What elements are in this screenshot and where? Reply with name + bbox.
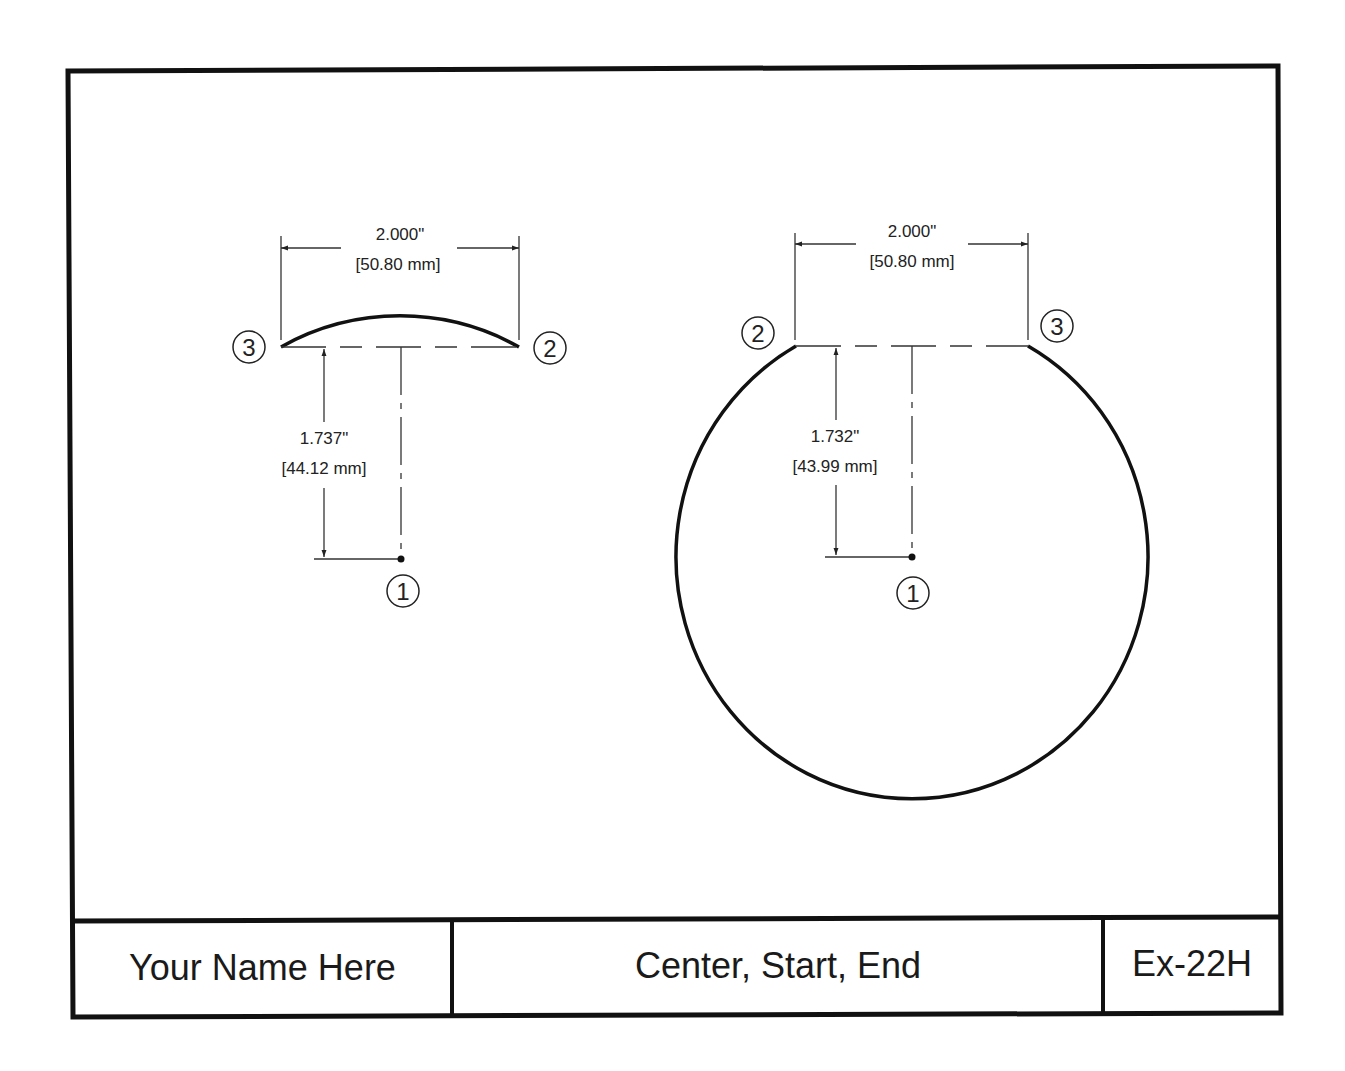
svg-text:1: 1 (906, 580, 919, 607)
left-marker-start: 2 (534, 332, 566, 364)
left-marker-center: 1 (387, 575, 419, 607)
left-height-dim-inch: 1.737" (300, 429, 349, 448)
svg-text:2: 2 (751, 320, 764, 347)
title-block-number: Ex-22H (1106, 919, 1278, 1009)
svg-text:2: 2 (543, 335, 556, 362)
right-arc (676, 346, 1148, 799)
left-width-dim-inch: 2.000" (376, 225, 425, 244)
title-block-title: Center, Start, End (455, 921, 1101, 1011)
left-marker-end: 3 (233, 331, 265, 363)
right-height-dim-inch: 1.732" (811, 427, 860, 446)
right-center-point (909, 554, 916, 561)
right-height-dim-mm: [43.99 mm] (792, 457, 877, 476)
sheet-border (68, 66, 1281, 1017)
right-width-dim-mm: [50.80 mm] (869, 252, 954, 271)
right-marker-end: 3 (1041, 310, 1073, 342)
left-arc-figure: 2.000" [50.80 mm] 1.737" [44.12 mm] 1 2 … (233, 225, 566, 607)
drawing-sheet: 2.000" [50.80 mm] 1.737" [44.12 mm] 1 2 … (0, 0, 1345, 1071)
left-center-point (398, 556, 405, 563)
svg-text:3: 3 (1050, 313, 1063, 340)
right-marker-center: 1 (897, 577, 929, 609)
title-block-name: Your Name Here (75, 923, 450, 1013)
svg-text:1: 1 (396, 578, 409, 605)
right-arc-figure: 2.000" [50.80 mm] 1.732" [43.99 mm] 1 2 … (676, 222, 1148, 799)
right-width-dim-inch: 2.000" (888, 222, 937, 241)
left-arc (281, 316, 519, 347)
right-marker-start: 2 (742, 317, 774, 349)
left-height-dim-mm: [44.12 mm] (281, 459, 366, 478)
left-width-dim-mm: [50.80 mm] (355, 255, 440, 274)
svg-text:3: 3 (242, 334, 255, 361)
